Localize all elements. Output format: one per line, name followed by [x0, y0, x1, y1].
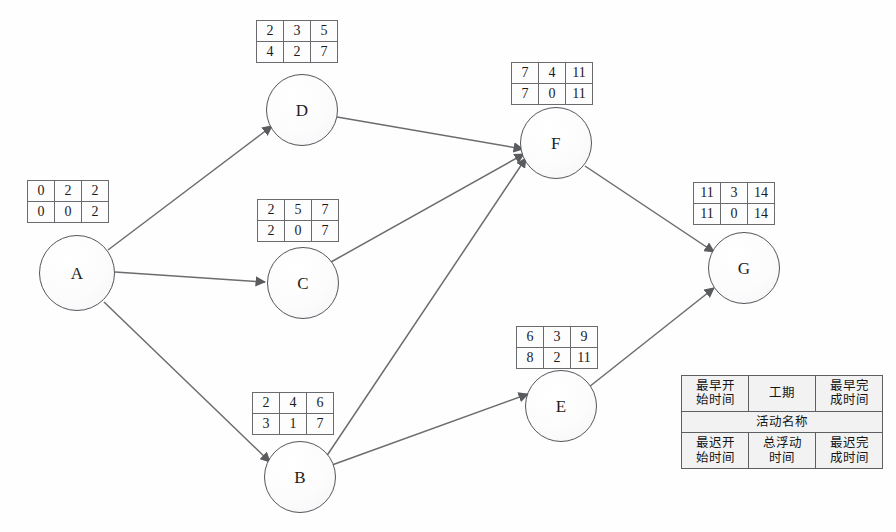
node-a-table: 0 2 2 0 0 2	[27, 180, 109, 223]
legend-early-finish: 最早完 成时间	[816, 376, 883, 412]
table-row: 0 2 2	[28, 181, 109, 202]
node-a-late-finish: 2	[82, 202, 109, 223]
legend-row-middle: 活动名称	[682, 411, 883, 432]
table-row: 2 0 7	[258, 221, 339, 242]
legend-late-finish: 最迟完 成时间	[816, 433, 883, 469]
node-g-early-start: 11	[694, 183, 721, 204]
node-a-total-float: 0	[55, 202, 82, 223]
edge-a-b	[104, 302, 270, 462]
edge-a-d	[108, 126, 272, 250]
node-b-late-start: 3	[253, 414, 280, 435]
node-c-early-start: 2	[258, 200, 285, 221]
node-d-early-start: 2	[257, 21, 284, 42]
node-a-duration: 2	[55, 181, 82, 202]
table-row: 4 2 7	[257, 42, 338, 63]
node-b-total-float: 1	[280, 414, 307, 435]
node-f-label: F	[551, 135, 561, 152]
node-g-early-finish: 14	[748, 183, 775, 204]
table-row: 2 5 7	[258, 200, 339, 221]
table-row: 11 3 14	[694, 183, 775, 204]
node-g[interactable]: G	[708, 232, 780, 304]
table-row: 7 0 11	[512, 84, 593, 105]
node-f[interactable]: F	[520, 107, 592, 179]
table-row: 3 1 7	[253, 414, 334, 435]
node-c[interactable]: C	[267, 247, 339, 319]
node-e-total-float: 2	[544, 348, 571, 369]
table-row: 2 4 6	[253, 393, 334, 414]
node-e-duration: 3	[544, 327, 571, 348]
node-b[interactable]: B	[264, 441, 336, 513]
node-d[interactable]: D	[266, 74, 338, 146]
legend-late-finish-line2: 成时间	[818, 451, 880, 465]
node-e-table: 6 3 9 8 2 11	[516, 326, 598, 369]
node-g-duration: 3	[721, 183, 748, 204]
edge-d-f	[337, 117, 523, 149]
legend-duration: 工期	[749, 376, 816, 412]
network-diagram-canvas: A 0 2 2 0 0 2 D 2 3 5 4 2 7 C 2	[0, 0, 896, 532]
node-e-late-finish: 11	[571, 348, 598, 369]
table-row: 2 3 5	[257, 21, 338, 42]
node-f-late-finish: 11	[566, 84, 593, 105]
legend-total-float-line2: 时间	[751, 451, 813, 465]
node-b-duration: 4	[280, 393, 307, 414]
node-d-early-finish: 5	[311, 21, 338, 42]
legend-total-float-line1: 总浮动	[751, 436, 813, 450]
node-d-duration: 3	[284, 21, 311, 42]
node-f-early-finish: 11	[566, 63, 593, 84]
node-e-late-start: 8	[517, 348, 544, 369]
table-row: 8 2 11	[517, 348, 598, 369]
node-g-label: G	[738, 260, 751, 277]
node-c-table: 2 5 7 2 0 7	[257, 199, 339, 242]
node-a[interactable]: A	[39, 235, 115, 311]
node-d-late-start: 4	[257, 42, 284, 63]
node-d-label: D	[296, 102, 309, 119]
node-e-label: E	[556, 398, 567, 415]
node-c-early-finish: 7	[312, 200, 339, 221]
legend-early-start-line1: 最早开	[684, 379, 746, 393]
table-row: 11 0 14	[694, 204, 775, 225]
node-c-total-float: 0	[285, 221, 312, 242]
node-g-late-start: 11	[694, 204, 721, 225]
legend-early-finish-line1: 最早完	[818, 379, 880, 393]
node-c-label: C	[297, 275, 309, 292]
edge-e-g	[589, 288, 714, 387]
edge-b-f	[326, 158, 526, 457]
node-f-late-start: 7	[512, 84, 539, 105]
node-c-late-finish: 7	[312, 221, 339, 242]
legend-row-bottom: 最迟开 始时间 总浮动 时间 最迟完 成时间	[682, 433, 883, 469]
table-row: 0 0 2	[28, 202, 109, 223]
node-g-table: 11 3 14 11 0 14	[693, 182, 775, 225]
node-b-label: B	[294, 469, 306, 486]
node-d-late-finish: 7	[311, 42, 338, 63]
node-g-total-float: 0	[721, 204, 748, 225]
node-a-label: A	[71, 265, 84, 282]
edge-c-f	[331, 154, 524, 262]
node-f-duration: 4	[539, 63, 566, 84]
node-f-early-start: 7	[512, 63, 539, 84]
node-b-early-start: 2	[253, 393, 280, 414]
node-b-late-finish: 7	[307, 414, 334, 435]
node-a-early-start: 0	[28, 181, 55, 202]
legend-box: 最早开 始时间 工期 最早完 成时间 活动名称 最迟开 始时间 总浮动 时间 最…	[681, 375, 883, 469]
node-b-table: 2 4 6 3 1 7	[252, 392, 334, 435]
node-e[interactable]: E	[525, 370, 597, 442]
legend-late-start-line2: 始时间	[684, 451, 746, 465]
node-a-early-finish: 2	[82, 181, 109, 202]
node-c-late-start: 2	[258, 221, 285, 242]
node-d-table: 2 3 5 4 2 7	[256, 20, 338, 63]
node-c-duration: 5	[285, 200, 312, 221]
node-e-early-finish: 9	[571, 327, 598, 348]
node-e-early-start: 6	[517, 327, 544, 348]
legend-early-start: 最早开 始时间	[682, 376, 749, 412]
node-b-early-finish: 6	[307, 393, 334, 414]
table-row: 6 3 9	[517, 327, 598, 348]
node-f-table: 7 4 11 7 0 11	[511, 62, 593, 105]
legend-early-finish-line2: 成时间	[818, 393, 880, 407]
legend-total-float: 总浮动 时间	[749, 433, 816, 469]
legend-late-start-line1: 最迟开	[684, 436, 746, 450]
node-d-total-float: 2	[284, 42, 311, 63]
legend-late-start: 最迟开 始时间	[682, 433, 749, 469]
legend-row-top: 最早开 始时间 工期 最早完 成时间	[682, 376, 883, 412]
node-a-late-start: 0	[28, 202, 55, 223]
edge-a-c	[115, 272, 265, 282]
